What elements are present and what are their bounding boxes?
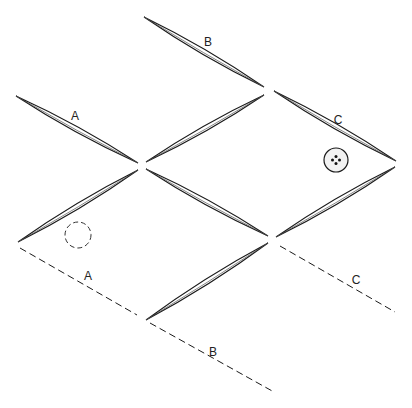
dart-lens-right-lower xyxy=(276,167,395,237)
dart-lens-left-lower xyxy=(18,170,138,242)
button-hole xyxy=(335,155,338,158)
dart-lens-center-up xyxy=(146,95,264,162)
edge-label: B xyxy=(209,345,217,359)
dashed-fold-lines xyxy=(20,246,395,392)
edge-labels: ABCABC xyxy=(71,35,361,359)
button-hole xyxy=(331,159,334,162)
edge-label: C xyxy=(352,273,361,287)
dart-lens-A-top xyxy=(16,96,138,163)
button-icon xyxy=(324,148,348,172)
pattern-diagram: ABCABC xyxy=(0,0,412,408)
edge-label: C xyxy=(334,113,343,127)
dart-lens-bottom-up xyxy=(146,243,268,320)
dart-lens-B-top xyxy=(144,17,264,87)
button-placement-marker xyxy=(65,222,91,248)
dashed-line-A-edge xyxy=(20,248,137,315)
edge-label: B xyxy=(204,35,212,49)
edge-label: A xyxy=(84,269,92,283)
button-outline xyxy=(324,148,348,172)
button-hole xyxy=(335,162,338,165)
dart-lens-center-down xyxy=(146,169,268,236)
dashed-line-C-edge xyxy=(280,246,395,312)
edge-label: A xyxy=(71,109,79,123)
button-hole xyxy=(338,159,341,162)
